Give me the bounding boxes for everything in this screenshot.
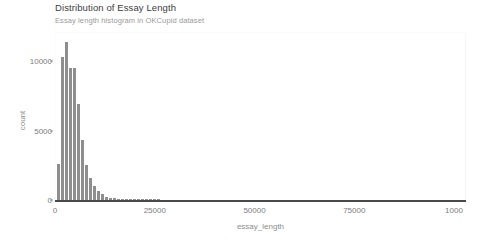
x-tick-label: 75000 <box>343 206 365 215</box>
x-tick-label: 1000 <box>445 206 463 215</box>
x-tick-label: 25000 <box>144 206 166 215</box>
x-axis: essay_length 02500050000750001000 <box>0 0 478 246</box>
x-tick-label: 0 <box>53 206 57 215</box>
x-axis-title: essay_length <box>55 222 466 231</box>
chart-container: Distribution of Essay Length Essay lengt… <box>0 0 478 246</box>
x-tick-label: 50000 <box>243 206 265 215</box>
